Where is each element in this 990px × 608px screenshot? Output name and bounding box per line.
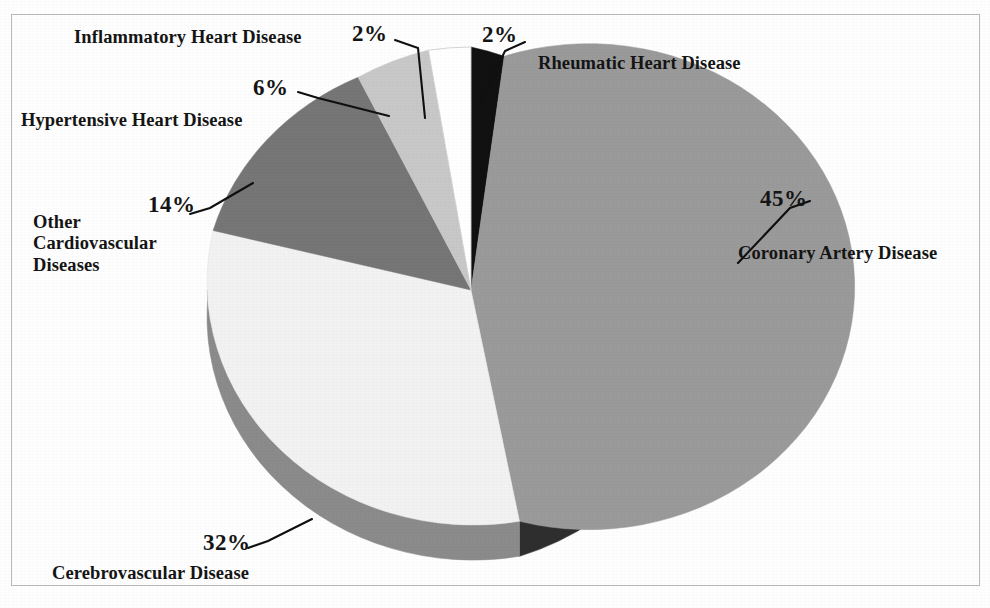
slice-label-coronary-artery-disease: Coronary Artery Disease bbox=[738, 243, 937, 264]
slice-label-cerebrovascular-disease: Cerebrovascular Disease bbox=[52, 563, 249, 584]
slice-percent-coronary-artery-disease: 45% bbox=[760, 186, 808, 213]
pie-chart-svg bbox=[0, 0, 990, 608]
slice-percent-inflammatory-heart-disease: 2% bbox=[352, 21, 388, 48]
slice-percent-rheumatic-heart-disease: 2% bbox=[482, 22, 518, 49]
pie-top-face bbox=[207, 44, 855, 530]
slice-percent-hypertensive-heart-disease: 6% bbox=[253, 75, 289, 102]
slice-coronary-artery-disease[interactable] bbox=[471, 44, 855, 530]
leader-line-cerebro bbox=[248, 519, 312, 548]
slice-label-rheumatic-heart-disease: Rheumatic Heart Disease bbox=[538, 53, 741, 74]
slice-label-other-cardiovascular-diseases: Other Cardiovascular Diseases bbox=[33, 212, 203, 276]
slice-label-other-line-3: Diseases bbox=[33, 255, 203, 276]
slice-label-other-line-2: Cardiovascular bbox=[33, 233, 203, 254]
figure-page: Inflammatory Heart Disease 2% 2% Rheumat… bbox=[0, 0, 990, 608]
slice-label-other-line-1: Other bbox=[33, 212, 203, 233]
slice-percent-cerebrovascular-disease: 32% bbox=[203, 530, 251, 557]
pie-chart: Inflammatory Heart Disease 2% 2% Rheumat… bbox=[0, 0, 990, 608]
slice-label-hypertensive-heart-disease: Hypertensive Heart Disease bbox=[21, 110, 242, 131]
slice-label-inflammatory-heart-disease: Inflammatory Heart Disease bbox=[74, 27, 302, 48]
